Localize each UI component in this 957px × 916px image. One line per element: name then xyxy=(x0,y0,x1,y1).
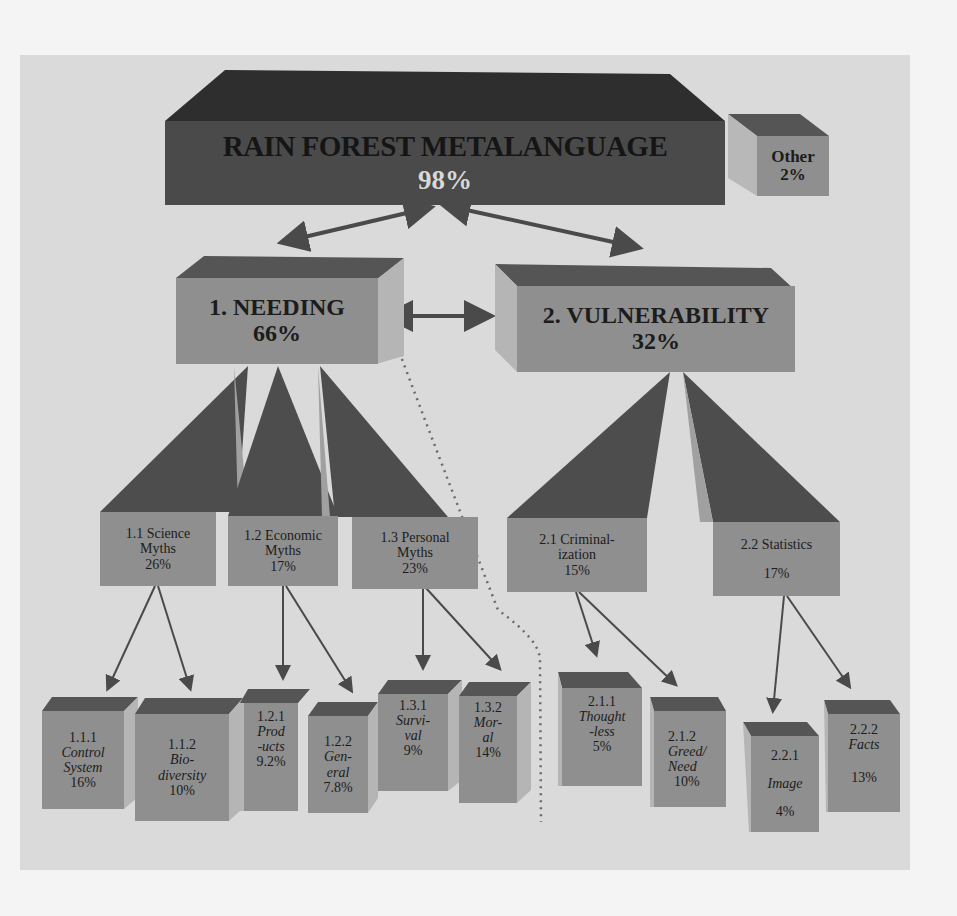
level3-percent: 16% xyxy=(70,775,96,790)
level3-label: Control xyxy=(61,745,104,760)
level3-label: al xyxy=(483,730,494,745)
level3-label: System xyxy=(64,760,103,775)
level3-id: 1.2.2 xyxy=(324,734,352,749)
level3-box-2-2-2: 2.2.2 Facts 13% xyxy=(824,700,900,812)
other-title: Other xyxy=(771,148,814,166)
root-percent: 98% xyxy=(418,166,472,195)
level3-percent: 4% xyxy=(776,804,795,819)
other-percent: 2% xyxy=(780,166,806,184)
arrow-root-needing xyxy=(300,208,428,238)
level2-label: Myths xyxy=(265,543,301,558)
level3-id: 2.1.1 xyxy=(588,694,616,709)
level2-percent: 17% xyxy=(764,566,790,581)
level3-box-1-3-1: 1.3.1 Survi- val 9% xyxy=(378,680,462,791)
level3-id: 2.1.2 xyxy=(668,729,696,744)
level2-percent: 17% xyxy=(270,559,296,574)
level3-label: Gen- xyxy=(324,749,352,764)
level3-label: Mor- xyxy=(474,715,503,730)
vulnerability-box: 2. VULNERABILITY 32% xyxy=(495,264,795,372)
level3-box-1-1-2: 1.1.2 Bio- diversity 10% xyxy=(135,698,243,821)
level3-box-2-1-1: 2.1.1 Thought -less 5% xyxy=(558,672,642,786)
root-box-top xyxy=(165,70,725,122)
level2-label: 1.1 Science xyxy=(126,526,191,541)
level3-label: eral xyxy=(327,765,350,780)
level3-percent: 10% xyxy=(668,774,700,789)
level3-percent: 9% xyxy=(404,743,423,758)
needing-title: 1. NEEDING xyxy=(209,295,345,321)
level2-box-2-1: 2.1 Criminal- ization 15% xyxy=(507,518,647,592)
level3-percent: 10% xyxy=(169,783,195,798)
level3-id: 2.2.1 xyxy=(771,748,799,763)
level3-id: 1.1.1 xyxy=(69,730,97,745)
level2-box-1-1: 1.1 Science Myths 26% xyxy=(100,512,216,586)
wedge-group-vulnerability xyxy=(507,372,840,522)
needing-percent: 66% xyxy=(253,321,301,347)
level2-percent: 23% xyxy=(402,561,428,576)
level2-percent: 26% xyxy=(145,557,171,572)
level2-label: 1.2 Economic xyxy=(244,528,322,543)
level3-label: Thought xyxy=(579,709,626,724)
wedge-group-needing xyxy=(100,366,448,517)
level3-id: 1.3.2 xyxy=(474,700,502,715)
level3-box-1-1-1: 1.1.1 Control System 16% xyxy=(42,697,138,809)
level3-id: 1.3.1 xyxy=(399,698,427,713)
level3-label: Survi- xyxy=(396,713,430,728)
level3-percent: 7.8% xyxy=(323,780,352,795)
level3-id: 2.2.2 xyxy=(850,722,878,737)
level2-box-1-3: 1.3 Personal Myths 23% xyxy=(352,517,448,589)
level3-percent: 14% xyxy=(475,745,501,760)
level2-box-2-2: 2.2 Statistics 17% xyxy=(713,522,840,596)
level2-label: Myths xyxy=(397,545,433,560)
level3-percent: 13% xyxy=(851,770,877,785)
level3-percent: 9.2% xyxy=(256,754,285,769)
vulnerability-title: 2. VULNERABILITY xyxy=(543,303,769,329)
level3-label: val xyxy=(404,728,421,743)
level3-label: Greed/ xyxy=(668,744,706,759)
level3-label: Image xyxy=(768,776,803,791)
level3-label: diversity xyxy=(158,768,206,783)
needing-box: 1. NEEDING 66% xyxy=(176,256,404,364)
level3-label: Facts xyxy=(848,737,879,752)
level3-id: 1.2.1 xyxy=(257,709,285,724)
level3-label: -less xyxy=(589,724,615,739)
level2-label: 2.2 Statistics xyxy=(741,537,813,552)
level3-label: -ucts xyxy=(257,739,284,754)
level3-label: Bio- xyxy=(170,752,194,767)
level3-percent: 5% xyxy=(593,739,612,754)
level2-label: 1.3 Personal xyxy=(380,530,449,545)
level2-percent: 15% xyxy=(564,563,590,578)
level3-box-2-1-2: 2.1.2 Greed/ Need 10% xyxy=(650,697,726,807)
level3-label: Need xyxy=(668,759,697,774)
other-box: Other 2% xyxy=(728,114,830,196)
root-box: RAIN FOREST METALANGUAGE 98% xyxy=(165,70,725,205)
root-title: RAIN FOREST METALANGUAGE xyxy=(223,131,668,162)
level2-label: 2.1 Criminal- xyxy=(539,532,614,547)
level2-label: Myths xyxy=(140,541,176,556)
level2-label: ization xyxy=(558,547,596,562)
level3-box-1-3-2: 1.3.2 Mor- al 14% xyxy=(459,682,531,803)
vulnerability-percent: 32% xyxy=(632,329,680,355)
level3-box-1-2-1: 1.2.1 Prod -ucts 9.2% xyxy=(240,689,310,811)
level3-box-2-2-1: 2.2.1 Image 4% xyxy=(743,722,821,832)
level2-box-1-2: 1.2 Economic Myths 17% xyxy=(228,516,338,586)
level3-label: Prod xyxy=(257,724,284,739)
level3-box-1-2-2: 1.2.2 Gen- eral 7.8% xyxy=(308,702,378,813)
arrow-root-vulnerability xyxy=(462,209,636,247)
level3-id: 1.1.2 xyxy=(168,737,196,752)
